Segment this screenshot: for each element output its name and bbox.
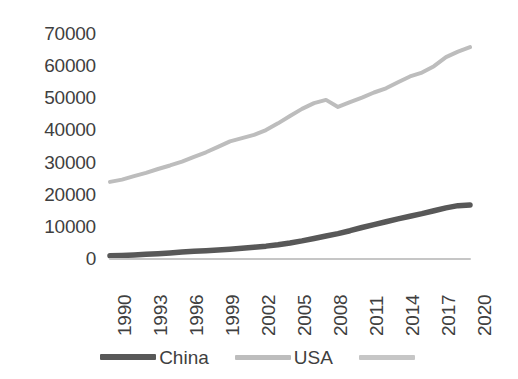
series-lines	[0, 0, 518, 379]
legend-swatch-icon	[100, 354, 156, 360]
legend-swatch-icon	[235, 355, 291, 360]
legend-item[interactable]	[359, 355, 418, 360]
legend-item[interactable]: USA	[235, 348, 333, 367]
legend-item[interactable]: China	[100, 348, 209, 367]
plot-area	[0, 0, 518, 379]
series-line	[110, 47, 470, 182]
chart-legend: ChinaUSA	[0, 342, 518, 372]
legend-label: China	[159, 348, 209, 367]
legend-swatch-icon	[359, 355, 415, 360]
line-chart: 700006000050000400003000020000100000 199…	[0, 0, 518, 379]
legend-label: USA	[294, 348, 333, 367]
series-line	[110, 205, 470, 256]
